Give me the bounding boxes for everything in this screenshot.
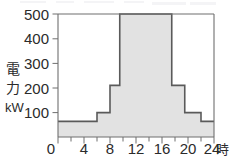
chart-svg: 500 400 300 200 100 0 4 8 12 16 20 24 時 … bbox=[0, 0, 233, 164]
series-area-fill bbox=[58, 14, 214, 137]
x-axis-unit-label: 時 bbox=[216, 142, 229, 157]
x-axis-tick-labels: 4 8 12 16 20 24 時 bbox=[80, 140, 229, 157]
origin-label: 0 bbox=[47, 140, 55, 157]
y-tick-label-500: 500 bbox=[24, 6, 49, 23]
x-tick-label-20: 20 bbox=[180, 140, 197, 157]
y-tick-label-100: 100 bbox=[24, 104, 49, 121]
y-axis-tick-labels: 500 400 300 200 100 bbox=[24, 6, 49, 122]
x-tick-label-8: 8 bbox=[106, 140, 114, 157]
y-axis-title: 電 力 kW bbox=[5, 61, 25, 115]
y-axis-unit-label: kW bbox=[5, 100, 25, 115]
y-axis-ticks bbox=[53, 14, 59, 113]
x-tick-label-16: 16 bbox=[154, 140, 171, 157]
x-tick-label-4: 4 bbox=[80, 140, 88, 157]
y-tick-label-200: 200 bbox=[24, 80, 49, 97]
power-demand-step-chart: 500 400 300 200 100 0 4 8 12 16 20 24 時 … bbox=[0, 0, 233, 164]
scan-artifacts bbox=[20, 1, 216, 5]
y-tick-label-400: 400 bbox=[24, 30, 49, 47]
y-axis-title-char-1: 電 bbox=[6, 61, 20, 77]
y-tick-label-300: 300 bbox=[24, 55, 49, 72]
x-tick-label-12: 12 bbox=[128, 140, 145, 157]
series-power-demand bbox=[58, 14, 214, 137]
y-axis-title-char-2: 力 bbox=[6, 80, 20, 96]
